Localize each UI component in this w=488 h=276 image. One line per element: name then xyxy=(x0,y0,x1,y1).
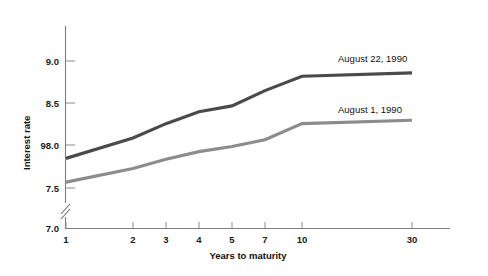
x-tick-label-7: 7 xyxy=(262,234,267,245)
y-tick-label-7-5: 7.5 xyxy=(46,183,60,194)
x-axis-title: Years to maturity xyxy=(209,250,287,261)
x-tick-label-2: 2 xyxy=(130,234,135,245)
x-tick-label-10: 10 xyxy=(297,234,308,245)
series-label-august-1-1990: August 1, 1990 xyxy=(338,104,402,115)
series-line-august-1-1990 xyxy=(66,120,412,182)
series-label-august-22-1990: August 22, 1990 xyxy=(338,53,407,64)
yield-curve-chart: 9.0 8.5 98.0 7.5 7.0 Interest rate 1 2 3… xyxy=(0,0,488,276)
y-tick-label-9-0: 9.0 xyxy=(46,56,59,67)
y-tick-label-8-5: 8.5 xyxy=(46,98,60,109)
x-tick-label-3: 3 xyxy=(163,234,168,245)
chart-canvas: 9.0 8.5 98.0 7.5 7.0 Interest rate 1 2 3… xyxy=(0,0,488,276)
y-axis-title: Interest rate xyxy=(21,116,32,170)
y-tick-label-7-0: 7.0 xyxy=(46,223,59,234)
x-tick-label-30: 30 xyxy=(407,234,418,245)
axis-break-icon xyxy=(61,204,70,219)
y-tick-label-8-0: 98.0 xyxy=(41,140,60,151)
x-tick-label-5: 5 xyxy=(229,234,235,245)
x-tick-label-4: 4 xyxy=(196,234,202,245)
x-tick-label-1: 1 xyxy=(63,234,69,245)
